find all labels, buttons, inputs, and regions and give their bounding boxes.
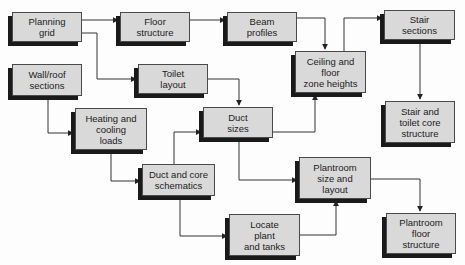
node-label: Plantroom size and layout xyxy=(313,162,356,195)
node-label: Wall/roof sections xyxy=(28,69,65,91)
node-ceiling-floor: Ceiling and floor zone heights xyxy=(295,51,366,93)
arrow-toilet-layout-to-duct-sizes xyxy=(208,79,239,105)
node-toilet-layout: Toilet layout xyxy=(138,64,208,94)
node-duct-sizes: Duct sizes xyxy=(203,107,273,138)
node-floor-structure: Floor structure xyxy=(120,12,190,42)
node-label: Duct and core schematics xyxy=(149,169,208,191)
arrow-heating-cooling-to-duct-core xyxy=(111,150,140,181)
node-label: Beam profiles xyxy=(247,16,278,38)
node-label: Heating and cooling loads xyxy=(85,113,136,146)
node-label: Floor structure xyxy=(137,16,174,38)
flowchart-canvas: Planning gridFloor structureBeam profile… xyxy=(0,0,465,265)
node-label: Stair and toilet core structure xyxy=(399,106,440,139)
node-label: Ceiling and floor zone heights xyxy=(304,56,358,89)
arrow-ceiling-floor-to-stair-sections xyxy=(344,18,382,51)
node-heating-cooling: Heating and cooling loads xyxy=(75,108,147,150)
node-label: Locate plant and tanks xyxy=(244,219,285,252)
node-wall-roof: Wall/roof sections xyxy=(12,64,82,96)
arrow-duct-core-to-locate-plant xyxy=(180,196,227,236)
node-label: Stair sections xyxy=(402,14,437,36)
arrow-duct-sizes-to-ceiling-floor xyxy=(273,95,315,132)
node-plantroom-floor: Plantroom floor structure xyxy=(386,213,456,254)
node-label: Duct sizes xyxy=(227,112,249,134)
arrow-locate-plant-to-plantroom-size xyxy=(300,201,336,235)
node-planning-grid: Planning grid xyxy=(12,12,82,42)
arrow-wall-roof-to-heating-cooling xyxy=(48,96,73,133)
arrow-beam-profiles-to-ceiling-floor xyxy=(297,18,325,49)
node-locate-plant: Locate plant and tanks xyxy=(229,214,300,256)
node-label: Toilet layout xyxy=(160,68,185,90)
node-stair-toilet-core: Stair and toilet core structure xyxy=(385,101,455,143)
arrow-duct-core-to-duct-sizes xyxy=(174,132,201,164)
node-duct-core: Duct and core schematics xyxy=(142,164,215,196)
node-label: Plantroom floor structure xyxy=(399,217,442,250)
arrow-duct-sizes-to-plantroom-size xyxy=(239,138,297,180)
node-plantroom-size: Plantroom size and layout xyxy=(299,157,371,199)
node-stair-sections: Stair sections xyxy=(384,10,455,40)
arrow-plantroom-size-to-plantroom-floor xyxy=(371,179,420,211)
node-beam-profiles: Beam profiles xyxy=(227,12,297,42)
node-label: Planning grid xyxy=(29,16,66,38)
